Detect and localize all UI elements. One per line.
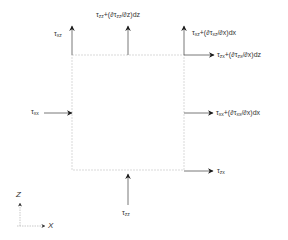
label-tau-zx-right-top: τzx+(∂τzx/∂x)dz [217, 51, 261, 60]
x-axis-label: X [48, 221, 53, 230]
label-tau-zz-top: τzz+(∂τzz/∂z)dz [96, 11, 140, 20]
z-axis-label: Z [16, 190, 21, 199]
label-tau-zz-bottom: τzz [122, 209, 130, 218]
label-tau-xx-left: τxx [31, 108, 39, 117]
label-tau-xz: τxz [54, 30, 62, 39]
stress-diagram [0, 0, 288, 240]
label-tau-zx-bottom: τzx [217, 167, 225, 176]
label-tau-xz-right: τxz+(∂τxz/∂x)dx [192, 29, 236, 38]
element-square [72, 55, 184, 170]
label-tau-xx-right: τxx+(∂τxx/∂x)dx [216, 109, 260, 118]
